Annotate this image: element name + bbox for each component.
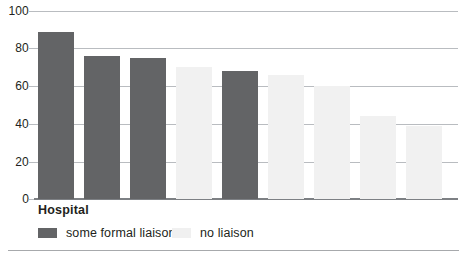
legend-label: some formal liaison: [66, 227, 176, 240]
legend-label: no liaison: [200, 227, 254, 240]
bar-6: [268, 75, 304, 199]
bar-4: [176, 67, 212, 199]
legend-swatch-icon: [38, 228, 57, 238]
bar-group: [0, 0, 467, 210]
bottom-divider: [8, 250, 459, 251]
chart-figure: 100 80 60 40 20 0 Hospital some formal l…: [0, 0, 467, 261]
legend-item-some-formal-liaison: some formal liaison: [38, 225, 176, 241]
bar-1: [38, 32, 74, 199]
x-axis-title: Hospital: [38, 203, 89, 217]
bar-5: [222, 71, 258, 199]
bar-8: [360, 116, 396, 199]
legend-item-no-liaison: no liaison: [172, 225, 254, 241]
chart-legend: some formal liaison no liaison: [38, 225, 458, 241]
bar-2: [84, 56, 120, 199]
bar-3: [130, 58, 166, 199]
legend-swatch-icon: [172, 228, 191, 238]
bar-9: [406, 126, 442, 199]
plot-area: 100 80 60 40 20 0: [0, 0, 467, 210]
bar-7: [314, 86, 350, 199]
